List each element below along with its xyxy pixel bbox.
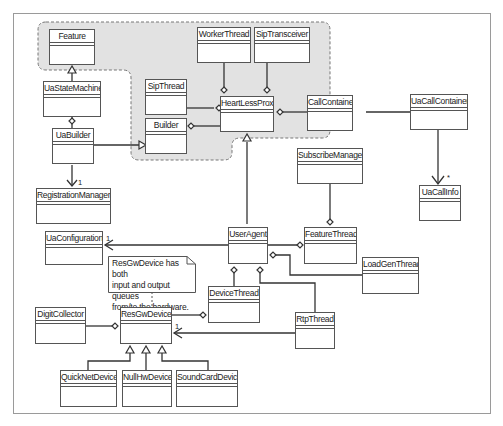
class-name: Feature (50, 30, 94, 43)
class-name: RegistrationManager (37, 189, 110, 202)
class-subscribe-manager: SubscribeManager (297, 148, 363, 184)
class-name: SipThread (146, 80, 186, 93)
class-heartless-proxy: HeartLessProxy (220, 96, 274, 132)
class-sip-transceiver: SipTransceiver (254, 27, 310, 63)
class-name: QuickNetDevice (61, 371, 116, 384)
class-name: SoundCardDevice (177, 371, 237, 384)
class-name: HeartLessProxy (221, 97, 273, 110)
class-name: LoadGenThread (363, 258, 418, 271)
class-name: UaStateMachine (44, 82, 100, 95)
class-sip-thread: SipThread (145, 79, 187, 115)
class-res-gw-device: ResGwDevice (120, 307, 172, 344)
class-name: NullHwDevice (123, 371, 171, 384)
class-name: SubscribeManager (298, 149, 362, 162)
class-name: ResGwDevice (121, 308, 171, 321)
class-name: FeatureThread (305, 228, 356, 241)
note-text: ResGwDevice has both input and output qu… (112, 258, 192, 313)
class-name: UserAgent (229, 228, 267, 241)
class-ua-state-machine: UaStateMachine (43, 81, 101, 117)
class-ua-configuration: UaConfiguration (45, 231, 103, 265)
class-ua-call-container: UaCallContainer (410, 94, 468, 130)
class-ua-call-info: UaCallInfo (419, 185, 461, 221)
multiplicity-ua-call-info: * (447, 173, 450, 182)
class-quick-net-device: QuickNetDevice (60, 370, 117, 407)
class-registration-manager: RegistrationManager (36, 188, 111, 224)
class-name: RtpThread (296, 313, 334, 326)
class-name: UaBuilder (53, 129, 93, 142)
multiplicity-res-gw-device: 1 (175, 322, 179, 331)
multiplicity-ua-configuration: 1 (106, 234, 110, 243)
class-ua-builder: UaBuilder (52, 128, 94, 164)
class-load-gen-thread: LoadGenThread (362, 257, 419, 294)
class-device-thread: DeviceThread (208, 286, 260, 323)
class-user-agent: UserAgent (228, 227, 268, 264)
note-res-gw-device: ResGwDevice has both input and output qu… (108, 256, 196, 293)
class-name: SipTransceiver (255, 28, 309, 41)
class-name: Builder (146, 119, 186, 132)
class-name: UaCallContainer (411, 95, 467, 108)
class-name: CallContainer (308, 96, 352, 109)
class-feature-thread: FeatureThread (304, 227, 357, 264)
class-name: DeviceThread (209, 287, 259, 300)
multiplicity-registration-manager: 1 (78, 178, 82, 187)
class-name: UaConfiguration (46, 232, 102, 245)
class-call-container: CallContainer (307, 95, 353, 131)
class-name: DigitCollector (36, 308, 85, 321)
class-rtp-thread: RtpThread (295, 312, 335, 349)
class-builder: Builder (145, 118, 187, 154)
class-name: UaCallInfo (420, 186, 460, 199)
class-feature: Feature (49, 29, 95, 65)
class-worker-thread: WorkerThread (197, 27, 251, 63)
class-sound-card-device: SoundCardDevice (176, 370, 238, 407)
class-name: WorkerThread (198, 28, 250, 41)
class-null-hw-device: NullHwDevice (122, 370, 172, 407)
class-digit-collector: DigitCollector (35, 307, 86, 344)
